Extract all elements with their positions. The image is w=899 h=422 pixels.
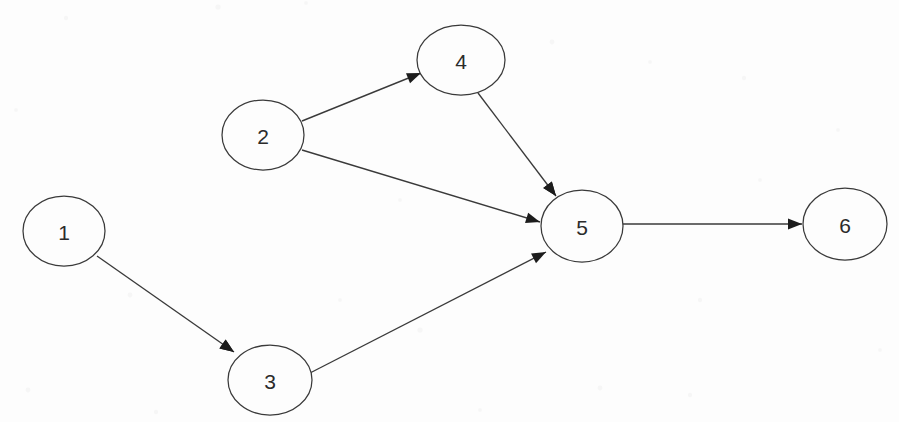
node-3[interactable]: 3 bbox=[228, 345, 312, 415]
node-4[interactable]: 4 bbox=[417, 25, 505, 95]
node-group: 1 2 3 4 5 6 bbox=[23, 25, 887, 415]
edge-line-4-5 bbox=[478, 93, 556, 196]
node-6[interactable]: 6 bbox=[803, 188, 887, 260]
node-6-label: 6 bbox=[839, 214, 851, 237]
edge-1-to-3[interactable] bbox=[97, 256, 234, 352]
edge-4-to-5[interactable] bbox=[478, 93, 556, 196]
node-4-label: 4 bbox=[455, 50, 467, 73]
arrowhead-2-4 bbox=[406, 73, 421, 83]
edge-line-2-5 bbox=[302, 150, 540, 222]
arrowhead-1-3-fill bbox=[219, 340, 234, 352]
node-3-label: 3 bbox=[264, 370, 276, 393]
arrowhead-5-6 bbox=[788, 219, 802, 230]
edge-3-to-5[interactable] bbox=[310, 252, 546, 373]
node-2-label: 2 bbox=[257, 125, 269, 148]
edge-2-to-4[interactable] bbox=[302, 73, 421, 121]
edge-line-3-5 bbox=[310, 252, 546, 373]
directed-graph-figure: 1 2 3 4 5 6 bbox=[0, 0, 899, 422]
edge-line-1-3 bbox=[97, 256, 234, 352]
arrowhead-4-5-fill bbox=[543, 182, 556, 196]
node-1-label: 1 bbox=[58, 221, 70, 244]
node-5-label: 5 bbox=[576, 216, 588, 239]
arrowhead-3-5 bbox=[531, 252, 546, 263]
edge-5-to-6[interactable] bbox=[623, 219, 802, 230]
edge-line-2-4 bbox=[302, 73, 421, 121]
node-5[interactable]: 5 bbox=[541, 190, 623, 262]
node-1[interactable]: 1 bbox=[23, 196, 105, 266]
arrowhead-2-5 bbox=[525, 213, 540, 223]
edge-2-to-5[interactable] bbox=[302, 150, 540, 223]
node-2[interactable]: 2 bbox=[222, 100, 304, 170]
edge-group bbox=[97, 73, 802, 373]
diagram-canvas: 1 2 3 4 5 6 bbox=[0, 0, 899, 422]
